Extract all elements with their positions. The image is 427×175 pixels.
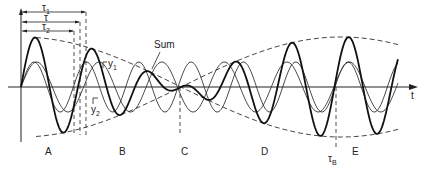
region-label-c: C: [181, 146, 188, 157]
y2-label: y2: [91, 104, 100, 117]
period-arrowheads: [22, 11, 86, 33]
tauB-label: τB: [328, 153, 337, 166]
region-label-e: E: [352, 146, 359, 157]
period-markers: [22, 12, 336, 150]
sum-label: Sum: [154, 39, 175, 50]
region-label-b: B: [119, 146, 126, 157]
amplitude-axis-arrow-icon: [19, 8, 23, 15]
region-label-d: D: [261, 146, 268, 157]
time-axis-label: t: [411, 90, 414, 101]
beat-diagram: t τ1 τ τ2 y1 y2 Sum A B C D E τB: [0, 0, 427, 175]
y1-label: y1: [108, 58, 117, 71]
region-label-a: A: [45, 146, 52, 157]
